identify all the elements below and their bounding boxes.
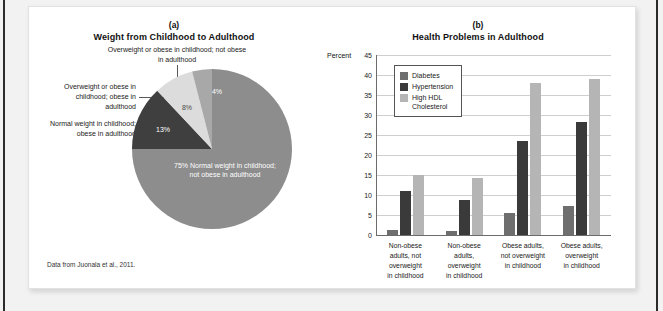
x-category-label-0: Non-obese adults, not overweight in chil… [372,241,439,280]
legend-swatch-icon-0 [400,72,408,80]
legend-swatch-icon-1 [400,83,408,91]
x-category-label-3: Obese adults, overweight in childhood [548,241,615,271]
bar-high-hdl-cholesterol-group-3 [589,79,600,235]
legend-item-diabetes: Diabetes [400,71,453,80]
bar-hypertension-group-3 [576,122,587,235]
bar-hypertension-group-2 [517,141,528,235]
bar-high-hdl-cholesterol-group-2 [530,83,541,235]
figure-page: (a) Weight from Childhood to Adulthood O… [0,0,663,311]
pie-svg [132,69,292,229]
figure-card: (a) Weight from Childhood to Adulthood O… [28,6,636,289]
legend-label-0: Diabetes [412,71,440,80]
pie-callout-lower: Normal weight in childhood; obese in adu… [39,119,136,139]
y-tick-label-0: 0 [368,232,372,239]
page-right-rule [656,0,658,311]
legend-swatch-icon-2 [400,94,408,102]
pie-callout-middle: Overweight or obese in childhood; obese … [43,82,136,112]
bar-diabetes-group-0 [387,230,398,235]
source-note: Data from Juonala et al., 2011. [47,261,135,268]
bar-diabetes-group-2 [504,213,515,235]
bar-high-hdl-cholesterol-group-0 [413,175,424,235]
legend-label-1: Hypertension [412,82,453,91]
x-category-label-1: Non-obese adults, overweight in childhoo… [431,241,498,280]
page-left-rule [3,0,5,311]
panel-b-letter: (b) [319,20,637,30]
panel-a-title: Weight from Childhood to Adulthood [29,32,319,42]
y-axis-line [376,55,377,235]
y-tick-label-25: 25 [364,132,372,139]
gridline-45: 45 [376,55,611,56]
panel-b-title: Health Problems in Adulthood [319,32,637,42]
pie-chart: 75% Normal weight in childhood; not obes… [132,69,292,229]
y-tick-label-5: 5 [368,212,372,219]
panel-a-pie-chart: (a) Weight from Childhood to Adulthood O… [29,7,319,290]
chart-legend: DiabetesHypertensionHigh HDL Cholesterol [394,65,462,117]
bar-plot-area: 051015202530354045 Non-obese adults, not… [376,55,611,235]
panel-b-bar-chart: (b) Health Problems in Adulthood Percent… [319,7,637,290]
legend-label-2: High HDL Cholesterol [412,93,447,111]
y-tick-label-40: 40 [364,72,372,79]
y-axis-unit-label: Percent [327,52,351,59]
legend-item-high-hdl-cholesterol: High HDL Cholesterol [400,93,453,111]
bar-diabetes-group-3 [563,206,574,235]
legend-item-hypertension: Hypertension [400,82,453,91]
x-category-label-2: Obese adults, not overweight in childhoo… [490,241,557,271]
bar-diabetes-group-1 [446,231,457,235]
panel-a-letter: (a) [29,20,319,30]
bar-hypertension-group-0 [400,191,411,235]
bar-high-hdl-cholesterol-group-1 [472,178,483,235]
y-tick-label-45: 45 [364,52,372,59]
y-tick-label-10: 10 [364,192,372,199]
y-tick-label-35: 35 [364,92,372,99]
bar-hypertension-group-1 [459,200,470,235]
y-tick-label-15: 15 [364,172,372,179]
y-tick-label-20: 20 [364,152,372,159]
y-tick-label-30: 30 [364,112,372,119]
pie-callout-top: Overweight or obese in childhood; not ob… [107,45,247,65]
x-axis-line [376,235,611,236]
